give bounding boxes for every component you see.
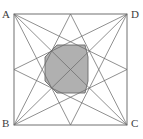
vertex-label-c: C — [131, 118, 138, 129]
vertex-label-d: D — [131, 9, 139, 20]
geometry-figure: A D B C — [0, 0, 143, 139]
figure-canvas — [0, 0, 143, 139]
star-chord-group — [14, 14, 127, 125]
vertex-label-b: B — [2, 118, 9, 129]
vertex-label-a: A — [2, 9, 10, 20]
